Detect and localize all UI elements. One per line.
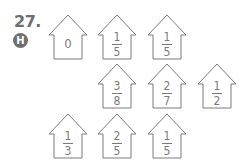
house-card: 15: [97, 14, 137, 60]
fraction-numerator: 2: [97, 130, 137, 142]
fraction-numerator: 1: [147, 31, 187, 43]
house-card: 12: [197, 63, 237, 109]
fraction-denominator: 5: [97, 46, 137, 58]
fraction-denominator: 7: [147, 95, 187, 107]
fraction-numerator: 1: [97, 31, 137, 43]
house-card: 15: [147, 14, 187, 60]
house-card: 25: [97, 113, 137, 159]
fraction-denominator: 8: [97, 95, 137, 107]
fraction-denominator: 5: [147, 145, 187, 157]
problem-number: 27.: [14, 12, 41, 31]
fraction-denominator: 5: [97, 145, 137, 157]
hard-badge-icon: H: [13, 33, 28, 48]
fraction-numerator: 1: [147, 130, 187, 142]
house-value: 0: [48, 38, 88, 50]
house-card: 27: [147, 63, 187, 109]
fraction-denominator: 3: [48, 145, 88, 157]
fraction-numerator: 2: [147, 80, 187, 92]
fraction-numerator: 1: [48, 130, 88, 142]
house-card: 0: [48, 14, 88, 60]
house-card: 13: [48, 113, 88, 159]
fraction-numerator: 3: [97, 80, 137, 92]
fraction-numerator: 1: [197, 80, 237, 92]
fraction-denominator: 2: [197, 95, 237, 107]
house-card: 15: [147, 113, 187, 159]
fraction-denominator: 5: [147, 46, 187, 58]
house-card: 38: [97, 63, 137, 109]
